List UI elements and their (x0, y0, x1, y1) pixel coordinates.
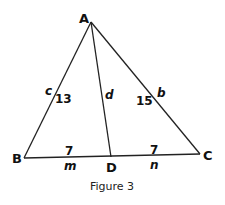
vertex-label-b: B (12, 151, 22, 166)
side-label-m: m (64, 159, 77, 173)
side-label-b: b (157, 86, 166, 100)
side-label-c: c (45, 84, 52, 98)
vertex-label-c: C (203, 148, 213, 163)
segment-bc (24, 154, 200, 158)
vertex-label-a: A (79, 11, 89, 26)
figure-caption: Figure 3 (90, 180, 134, 193)
length-label-ac: 15 (136, 94, 153, 108)
length-label-bd: 7 (65, 144, 73, 158)
length-label-ab: 13 (55, 92, 72, 106)
triangle-diagram: A B C D c 13 d 15 b 7 m 7 n Figure 3 (0, 0, 225, 205)
segment-ab (24, 22, 91, 158)
side-label-d: d (105, 88, 114, 102)
vertex-label-d: D (106, 160, 117, 175)
side-label-n: n (150, 158, 159, 172)
length-label-dc: 7 (150, 143, 158, 157)
